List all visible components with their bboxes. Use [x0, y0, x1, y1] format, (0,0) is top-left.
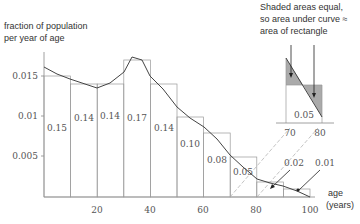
x-tick-100: 100: [301, 205, 318, 215]
x-tick-80: 80: [250, 205, 262, 215]
inset-tick-70: 70: [284, 128, 296, 138]
bar-20-30: [97, 84, 124, 197]
x-axis-label-line1: age: [328, 188, 343, 198]
x-tick-20: 20: [91, 205, 103, 215]
bar-10-20: [71, 84, 98, 197]
y-tick-0005: 0.005: [12, 151, 38, 161]
x-tick-40: 40: [144, 205, 156, 215]
inset-bar-label: 0.05: [294, 110, 314, 120]
bar-label: 0.14: [154, 123, 174, 133]
inset-caption-line1: Shaded areas equal,: [260, 2, 343, 12]
bar-0-10: [44, 76, 71, 197]
bar-80-90: [257, 182, 284, 197]
x-tick-60: 60: [197, 205, 209, 215]
bar-30-40: [124, 60, 151, 197]
bar-40-50: [150, 84, 177, 197]
x-ticks: 20 40 60 80 100: [91, 205, 319, 215]
bar-label: 0.14: [100, 111, 120, 121]
projection-line-70: [230, 128, 290, 197]
y-ticks: 0.015 0.01 0.005: [12, 71, 44, 161]
y-axis-label-line2: per year of age: [4, 33, 65, 43]
bar-50-60: [177, 117, 204, 197]
bar-70-80: [230, 157, 257, 197]
bar-label: 0.14: [74, 113, 94, 123]
y-axis-label-line1: fraction of population: [4, 21, 88, 31]
inset-caption-line3: area of rectangle: [260, 26, 328, 36]
bar-label: 0.08: [207, 155, 227, 165]
callout-arrow-001: [299, 170, 320, 190]
callout-arrow-002: [272, 170, 290, 187]
population-chart: fraction of population per year of age 0…: [0, 0, 360, 224]
callout-label-001: 0.01: [315, 158, 335, 168]
y-tick-001: 0.01: [18, 111, 38, 121]
inset-tick-80: 80: [314, 128, 326, 138]
point-marker-icon: [296, 188, 299, 191]
callout-label-002: 0.02: [284, 158, 304, 168]
inset-magnified-bar: 0.05 70 80: [276, 45, 334, 138]
bar-label: 0.10: [180, 139, 200, 149]
histogram-bars: [44, 60, 310, 197]
inset-caption-line2: so area under curve ≈: [260, 14, 348, 24]
x-axis-label-line2: (years): [326, 200, 354, 210]
bar-label: 0.05: [233, 167, 253, 177]
bar-label: 0.17: [127, 113, 147, 123]
bar-label: 0.15: [47, 123, 67, 133]
bar-60-70: [204, 133, 231, 197]
y-tick-0015: 0.015: [12, 71, 38, 81]
